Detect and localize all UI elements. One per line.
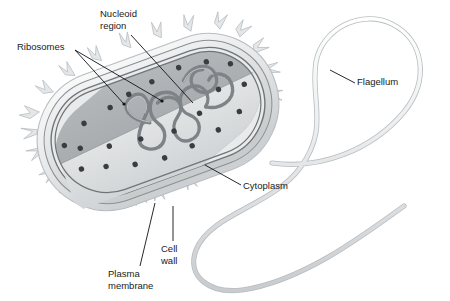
diagram-canvas: Ribosomes Nucleoid region Flagellum Cyto… — [0, 0, 450, 301]
arrowhead-ribosome-1 — [122, 102, 125, 105]
leader-plasma-membrane — [140, 203, 155, 266]
prokaryotic-cell-diagram — [0, 0, 450, 301]
label-cytoplasm: Cytoplasm — [243, 180, 288, 192]
arrowhead-ribosome-2 — [160, 99, 163, 102]
label-nucleoid-region: Nucleoid region — [100, 8, 137, 31]
bacterial-cell-body — [0, 0, 309, 238]
label-flagellum: Flagellum — [357, 76, 398, 88]
label-ribosomes: Ribosomes — [17, 41, 65, 53]
leader-flagellum — [330, 70, 355, 83]
label-cell-wall: Cell wall — [161, 243, 177, 266]
label-plasma-membrane: Plasma membrane — [108, 268, 153, 291]
